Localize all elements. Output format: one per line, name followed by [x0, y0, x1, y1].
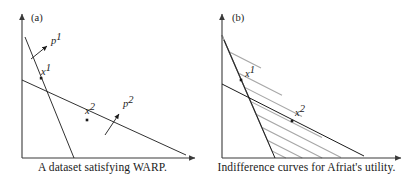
- figure-container: (a) p1 x1 x2 p2 A dataset satisfying WAR…: [0, 0, 409, 185]
- indifference-curves-group: [222, 35, 341, 158]
- panel-b: (b) x1 x2 Indifference curves for Afriat…: [204, 0, 409, 185]
- indifference-curve-8: [222, 35, 286, 158]
- panel-b-plot: (b) x1 x2: [204, 0, 409, 163]
- bundle-1-label: x1: [244, 64, 255, 79]
- price-vector-2-label: p2: [122, 94, 134, 109]
- bundle-1-label: x1: [40, 62, 51, 77]
- price-arrow-1: [31, 46, 47, 59]
- budget-line-1: [25, 37, 74, 158]
- bundle-1-sup: 1: [46, 62, 51, 73]
- panel-tag-a: (a): [31, 12, 43, 24]
- panel-tag-b: (b): [232, 12, 245, 24]
- panel-a: (a) p1 x1 x2 p2 A dataset satisfying WAR…: [0, 0, 205, 185]
- panel-a-plot: (a) p1 x1 x2 p2: [0, 0, 205, 163]
- indifference-curve-6: [222, 35, 322, 158]
- panel-b-caption: Indifference curves for Afriat's utility…: [204, 161, 409, 173]
- bundle-2-sup: 2: [90, 101, 96, 112]
- indifference-curve-5: [222, 35, 341, 157]
- bundle-2-label: x2: [84, 101, 96, 116]
- indifference-curve-1: [222, 35, 261, 68]
- price-arrow-2: [105, 114, 119, 135]
- bundle-1-sup: 1: [250, 64, 255, 75]
- bundle-point-2: [86, 119, 89, 122]
- budget-line-2: [22, 80, 186, 155]
- panel-a-caption: A dataset satisfying WARP.: [0, 161, 205, 173]
- price-vector-1-label: p1: [50, 31, 62, 46]
- bundle-point-1: [240, 79, 243, 82]
- price-vector-2-sup: 2: [128, 94, 134, 105]
- bundle-point-2: [291, 120, 294, 123]
- bundle-point-1: [40, 77, 43, 80]
- price-vector-1-sup: 1: [56, 31, 61, 42]
- bundle-2-sup: 2: [300, 103, 306, 114]
